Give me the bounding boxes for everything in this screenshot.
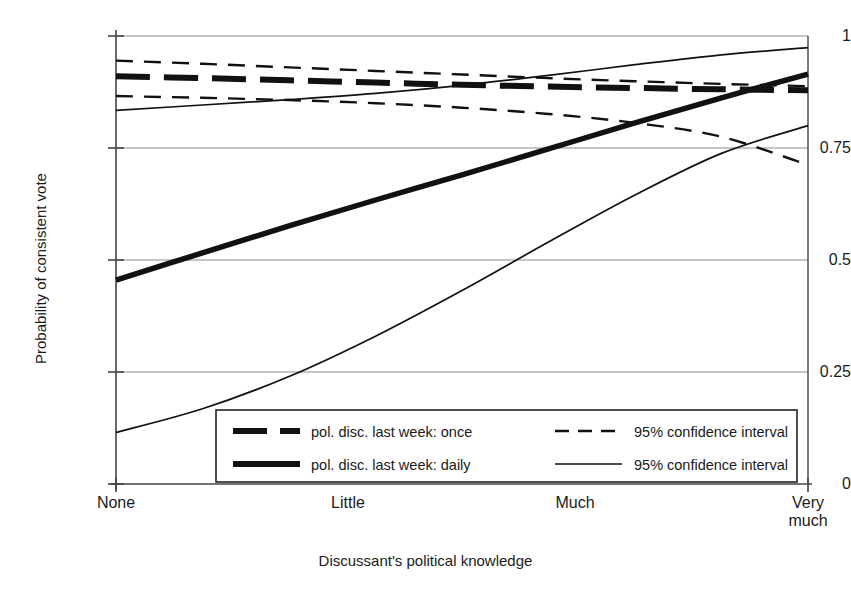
x-tick-label-verymuch: Very much <box>768 494 848 530</box>
x-tick-label-little: Little <box>308 494 388 512</box>
data-series-group <box>116 48 808 433</box>
x-tick-label-much: Much <box>535 494 615 512</box>
legend-label-ci-once: 95% confidence interval <box>634 424 788 440</box>
legend-label-daily: pol. disc. last week: daily <box>311 457 471 473</box>
series-lower-ci-daily <box>116 126 808 433</box>
legend-label-ci-daily: 95% confidence interval <box>634 457 788 473</box>
x-tick-label-verymuch-line2: much <box>788 512 827 529</box>
x-tick-label-verymuch-line1: Very <box>792 494 824 511</box>
y-tick-label-075: 0.75 <box>743 140 851 156</box>
legend[interactable]: pol. disc. last week: once 95% confidenc… <box>216 410 797 482</box>
y-axis-title: Probability of consistent vote <box>32 89 49 449</box>
series-lower-ci-once <box>116 96 808 165</box>
legend-label-once: pol. disc. last week: once <box>311 424 472 440</box>
y-tick-label-1: 1 <box>743 28 851 44</box>
y-tick-label-025: 0.25 <box>743 364 851 380</box>
y-tick-label-05: 0.5 <box>743 252 851 268</box>
x-tick-label-none: None <box>76 494 156 512</box>
y-tick-label-0: 0 <box>743 476 851 492</box>
chart-figure: Probability of consistent vote Discussan… <box>0 0 851 600</box>
x-axis-title: Discussant's political knowledge <box>0 552 851 569</box>
series-daily <box>116 74 808 280</box>
